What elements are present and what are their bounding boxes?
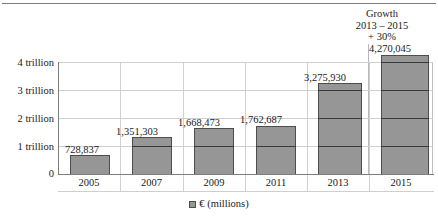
x-axis-label-row-border (58, 191, 434, 192)
x-axis-tick-2009: 2009 (183, 177, 245, 189)
bar-2011-gridline-overlay (256, 146, 296, 147)
bar-label-2011: 1,762,687 (224, 114, 298, 125)
y-axis-tick-4-trillion: 4 trillion (18, 57, 54, 68)
x-axis-tick-2013: 2013 (307, 177, 369, 189)
x-axis-line (58, 174, 434, 175)
category-separator-5 (369, 62, 370, 175)
growth-annotation-line-1: Growth (330, 8, 434, 20)
y-axis-tick-0: 0 (49, 168, 54, 179)
y-axis-tick-labels: 4 trillion 3 trillion 2 trillion 1 trill… (0, 0, 54, 219)
x-axis-tick-2011: 2011 (245, 177, 307, 189)
bar-2009-gridline-overlay (194, 146, 234, 147)
growth-annotation-line-2: 2013 – 2015 (330, 20, 434, 32)
bar-2013-gridline-overlay-2t (318, 118, 362, 119)
bar-2005[interactable] (70, 155, 110, 175)
bar-chart-figure: Growth 2013 – 2015 + 30% 4 trillion 3 tr… (0, 0, 438, 219)
y-axis-tick-2-trillion: 2 trillion (18, 113, 54, 124)
bar-label-2013: 3,275,930 (288, 72, 362, 83)
bar-2007-gridline-overlay (132, 146, 172, 147)
bar-2011[interactable] (256, 126, 296, 175)
legend-label: € (millions) (199, 198, 248, 210)
legend-entry-euro-millions[interactable]: € (millions) (189, 198, 248, 210)
category-separator-1 (120, 62, 121, 175)
legend: € (millions) (0, 198, 438, 210)
y-axis-line (58, 62, 59, 175)
y-axis-tick-1-trillion: 1 trillion (18, 141, 54, 152)
bar-2013-gridline-overlay-3t (318, 90, 362, 91)
bar-label-2005: 728,837 (50, 144, 114, 155)
bar-2015-gridline-overlay-1t (381, 146, 429, 147)
bar-2015-gridline-overlay-3t (381, 90, 429, 91)
bar-2015-gridline-overlay-2t (381, 118, 429, 119)
x-axis-tick-2015: 2015 (369, 177, 433, 189)
top-rule-divider (2, 3, 436, 4)
bar-2015-gridline-overlay-4t (381, 62, 429, 63)
bar-2015[interactable] (381, 55, 429, 175)
bar-2013[interactable] (318, 83, 362, 175)
bar-2013-gridline-overlay-1t (318, 146, 362, 147)
x-axis-tick-2007: 2007 (120, 177, 183, 189)
growth-annotation: Growth 2013 – 2015 + 30% (330, 8, 434, 43)
legend-swatch-icon (189, 201, 196, 208)
growth-annotation-line-3: + 30% (330, 31, 434, 43)
bar-2007[interactable] (132, 137, 172, 175)
bar-label-2015: 4,270,045 (350, 43, 430, 54)
y-axis-tick-3-trillion: 3 trillion (18, 85, 54, 96)
bar-2009[interactable] (194, 128, 234, 175)
x-axis-tick-2005: 2005 (58, 177, 120, 189)
